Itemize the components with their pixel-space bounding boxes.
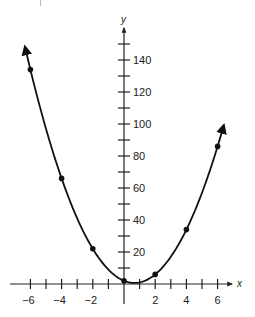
y-tick-label: 140 xyxy=(133,54,151,66)
parabola-chart: −6−4−2246 20406080100120140 x y xyxy=(0,0,255,317)
y-axis-label: y xyxy=(120,14,127,25)
y-tick-label: 120 xyxy=(133,86,151,98)
y-tick-label: 40 xyxy=(133,214,145,226)
data-point xyxy=(59,176,65,182)
x-tick-label: −2 xyxy=(85,294,98,306)
x-axis: −6−4−2246 xyxy=(10,279,232,306)
data-point xyxy=(121,278,127,284)
x-tick-label: −4 xyxy=(53,294,66,306)
x-axis-label: x xyxy=(236,278,243,289)
x-tick-label: 6 xyxy=(215,294,221,306)
data-point xyxy=(152,272,158,278)
y-tick-label: 20 xyxy=(133,246,145,258)
x-tick-label: −6 xyxy=(22,294,35,306)
y-axis: 20406080100120140 xyxy=(118,28,151,304)
y-tick-label: 60 xyxy=(133,182,145,194)
data-point xyxy=(28,67,34,73)
x-tick-label: 2 xyxy=(152,294,158,306)
data-point xyxy=(215,144,221,150)
data-point xyxy=(184,227,190,233)
x-tick-label: 4 xyxy=(183,294,189,306)
data-point xyxy=(90,246,96,252)
y-tick-label: 80 xyxy=(133,150,145,162)
y-tick-label: 100 xyxy=(133,118,151,130)
